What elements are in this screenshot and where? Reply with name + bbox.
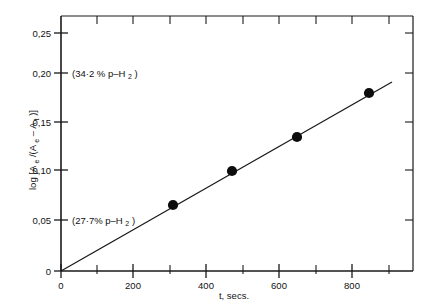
annotation-upper: (34·2 % p–H 2 ) [72, 68, 138, 82]
x-tick-label-800: 800 [344, 280, 360, 291]
annotation-lower-close: ) [132, 215, 135, 226]
annotation-lower-open: (27·7% p–H [72, 215, 123, 226]
data-point [364, 88, 374, 98]
y-axis-label-prefix: log [27, 177, 38, 190]
parahydrogen-conversion-chart: 0,25 0,20 0,15 0,10 0,05 0 0 200 400 600… [0, 0, 426, 301]
plot-frame [61, 16, 413, 271]
y-axis-label-close: )] [27, 110, 38, 116]
annotation-lower: (27·7% p–H 2 ) [72, 215, 135, 229]
right-axis-ticks [405, 33, 413, 220]
annotation-upper-open: (34·2 % p–H [72, 68, 125, 79]
data-point [168, 200, 178, 210]
data-point [227, 166, 237, 176]
y-tick-label-0: 0 [46, 266, 51, 277]
y-tick-label-0.05: 0,05 [33, 215, 52, 226]
y-tick-label-0.20: 0,20 [33, 68, 52, 79]
x-tick-labels: 0 200 400 600 800 [58, 280, 360, 291]
y-axis-label-sub-e2: e [33, 139, 40, 143]
annotation-lower-subscript: 2 [125, 220, 129, 227]
data-point [292, 132, 302, 142]
x-tick-label-0: 0 [58, 280, 63, 291]
x-axis-minor-ticks [97, 265, 389, 274]
fit-line [61, 82, 392, 271]
x-axis-label: t, secs. [219, 290, 249, 301]
top-axis-ticks [97, 16, 389, 24]
y-tick-label-0.25: 0,25 [33, 28, 52, 39]
y-axis-label-body: [A [27, 165, 38, 175]
x-tick-label-400: 400 [198, 280, 214, 291]
y-axis-label-minus: – A [27, 122, 38, 136]
y-axis-label-sub-t: t [33, 118, 40, 120]
y-axis-label-mid: /(A [27, 144, 38, 157]
x-tick-label-600: 600 [271, 280, 287, 291]
annotation-upper-close: ) [135, 68, 138, 79]
annotation-upper-subscript: 2 [128, 73, 132, 80]
x-tick-label-200: 200 [125, 280, 141, 291]
y-axis-label-sub-e1: e [33, 160, 40, 164]
